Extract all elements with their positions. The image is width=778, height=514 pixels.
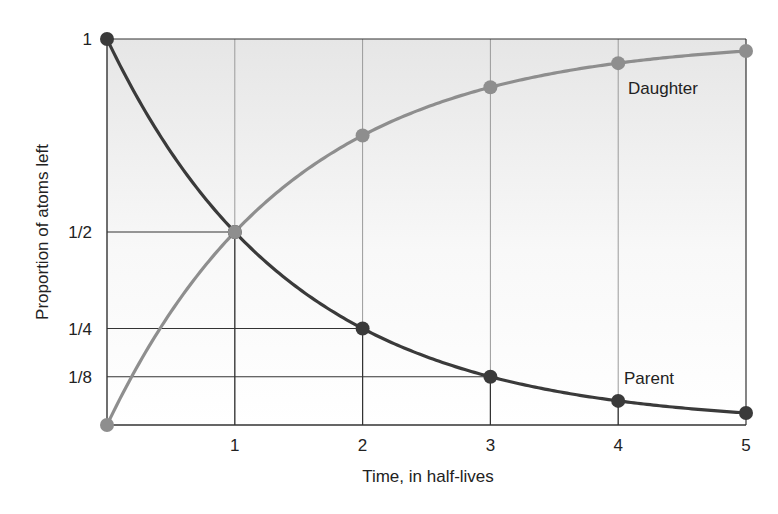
- daughter-data-point: [739, 44, 753, 58]
- half-life-chart: 1234511/21/41/8 Time, in half-lives Prop…: [0, 0, 778, 514]
- parent-data-point: [739, 406, 753, 420]
- daughter-data-point: [483, 80, 497, 94]
- x-tick-label: 1: [230, 436, 239, 455]
- daughter-data-point: [228, 225, 242, 239]
- x-tick-label: 2: [358, 436, 367, 455]
- x-axis-label: Time, in half-lives: [362, 467, 494, 486]
- parent-data-point: [356, 322, 370, 336]
- x-tick-label: 4: [613, 436, 622, 455]
- parent-label: Parent: [624, 369, 674, 388]
- parent-data-point: [483, 370, 497, 384]
- y-tick-label: 1/8: [68, 368, 92, 387]
- y-tick-label: 1/4: [68, 320, 92, 339]
- daughter-label: Daughter: [628, 79, 698, 98]
- daughter-data-point: [356, 129, 370, 143]
- daughter-data-point: [100, 418, 114, 432]
- daughter-data-point: [611, 56, 625, 70]
- y-axis-label: Proportion of atoms left: [33, 144, 52, 320]
- y-tick-label: 1/2: [68, 223, 92, 242]
- y-tick-label: 1: [83, 30, 92, 49]
- parent-data-point: [611, 394, 625, 408]
- parent-data-point: [100, 32, 114, 46]
- x-tick-label: 3: [486, 436, 495, 455]
- x-tick-label: 5: [741, 436, 750, 455]
